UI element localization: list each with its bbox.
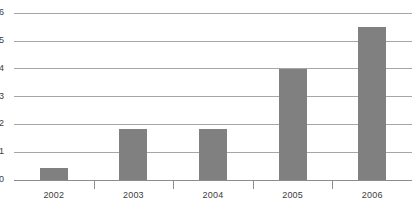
x-axis-tick [253, 180, 254, 189]
bar-chart: 0123456 20022003200420052006 [0, 0, 418, 213]
x-axis-tick [173, 180, 174, 189]
gridline [14, 96, 412, 97]
x-axis-tick-label: 2003 [94, 190, 174, 200]
bar [119, 129, 147, 180]
plot-area: 0123456 [14, 0, 412, 180]
bar [40, 168, 68, 180]
bar [279, 69, 307, 180]
y-axis-tick-label: 2 [0, 119, 4, 128]
gridline [14, 13, 412, 14]
x-axis-line [14, 180, 412, 181]
x-axis-tick-label: 2004 [173, 190, 253, 200]
y-axis-tick-label: 1 [0, 147, 4, 156]
x-axis-tick [332, 180, 333, 189]
bar [358, 27, 386, 180]
y-axis-tick-label: 3 [0, 92, 4, 101]
gridline [14, 68, 412, 69]
y-axis-tick-label: 0 [0, 175, 4, 184]
gridline [14, 41, 412, 42]
y-axis-tick-label: 4 [0, 64, 4, 73]
bar [199, 129, 227, 180]
x-axis-tick-label: 2006 [332, 190, 412, 200]
gridline [14, 124, 412, 125]
y-axis-tick-label: 5 [0, 36, 4, 45]
x-axis-tick-label: 2002 [14, 190, 94, 200]
x-axis-tick [94, 180, 95, 189]
x-axis-tick-label: 2005 [253, 190, 333, 200]
y-axis-tick-label: 6 [0, 8, 4, 17]
